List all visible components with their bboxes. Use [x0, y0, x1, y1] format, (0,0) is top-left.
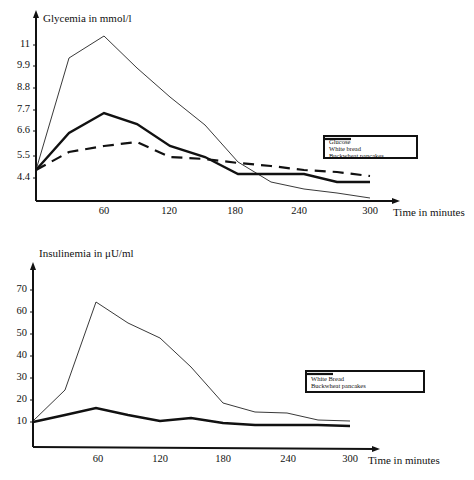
insulinemia-plot: [0, 240, 474, 480]
x-tick: 240: [284, 205, 314, 216]
y-tick: 10: [0, 415, 27, 426]
y-tick: 50: [0, 327, 27, 338]
x-tick: 120: [154, 205, 184, 216]
y-axis-label: Insulinemia in μU/ml: [39, 247, 134, 259]
legend-item-buckwheat: Buckwheat pancakes: [329, 152, 412, 159]
insulinemia-chart: Insulinemia in μU/ml 70 60 50 40 30 20 1…: [0, 240, 474, 480]
white-bread-insulin-line: [33, 302, 350, 421]
y-tick: 4.4: [0, 171, 30, 182]
x-tick: 300: [355, 205, 385, 216]
legend-item-white-bread: White Bread: [311, 375, 419, 382]
x-tick: 180: [208, 453, 238, 464]
glycemia-chart: Glycemia in mmol/l 11 9.9 8.8 7.7 6.6 5.…: [0, 0, 474, 240]
x-tick: 240: [273, 453, 303, 464]
x-tick: 120: [145, 453, 175, 464]
y-tick: 6.6: [0, 124, 30, 135]
glycemia-legend: Glucose White bread Buckwheat pancakes: [323, 135, 418, 159]
x-tick: 180: [220, 205, 250, 216]
glycemia-plot: [0, 0, 474, 240]
y-tick: 40: [0, 349, 27, 360]
x-axis-label: Time in minutes: [368, 454, 440, 466]
x-tick: 300: [335, 453, 365, 464]
y-axis-label: Glycemia in mmol/l: [43, 12, 132, 24]
y-tick: 9.9: [0, 59, 30, 70]
legend-item-white-bread: White bread: [329, 145, 412, 152]
legend-item-buckwheat: Buckwheat pancakes: [311, 382, 419, 389]
buckwheat-insulin-line: [33, 408, 350, 426]
y-tick: 70: [0, 283, 27, 294]
y-tick: 5.5: [0, 149, 30, 160]
y-tick: 20: [0, 393, 27, 404]
x-tick: 60: [89, 205, 119, 216]
x-axis-label: Time in minutes: [393, 206, 465, 218]
y-tick: 11: [0, 38, 30, 49]
buckwheat-line: [36, 142, 370, 176]
y-tick: 30: [0, 371, 27, 382]
glucose-line: [36, 36, 370, 198]
y-tick: 7.7: [0, 103, 30, 114]
insulinemia-legend: White Bread Buckwheat pancakes: [305, 370, 425, 393]
y-tick: 60: [0, 305, 27, 316]
x-tick: 60: [83, 453, 113, 464]
y-tick: 8.8: [0, 81, 30, 92]
